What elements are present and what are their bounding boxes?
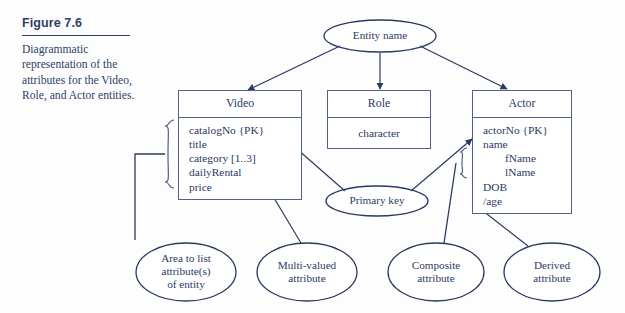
figure-page: Figure 7.6 Diagrammatic representation o…	[0, 0, 625, 313]
multi-valued-ellipse	[257, 243, 357, 301]
attribute-item: dailyRental	[189, 165, 301, 179]
connector-arealist	[135, 154, 165, 240]
entity-attributes-actor: actorNo {PK}namefNamelNameDOB/age	[473, 118, 571, 213]
attribute-item: name	[483, 137, 571, 151]
entity-box-actor: Actor actorNo {PK}namefNamelNameDOB/age	[472, 90, 572, 214]
brace-video-attributes	[165, 120, 174, 188]
primary-key-ellipse	[326, 186, 428, 216]
attribute-item: lName	[483, 165, 571, 179]
entity-box-video: Video catalogNo {PK}titlecategory [1..3]…	[178, 90, 302, 200]
attribute-item: title	[189, 137, 301, 151]
arrow-entityname-to-actor	[420, 46, 507, 89]
derived-attribute-ellipse	[504, 243, 600, 301]
brace-composite-attribute	[460, 148, 467, 178]
entity-box-role: Role character	[327, 90, 431, 149]
area-to-list-ellipse	[136, 243, 236, 301]
attribute-item: catalogNo {PK}	[189, 123, 301, 137]
attribute-item: actorNo {PK}	[483, 123, 571, 137]
attribute-item: fName	[483, 151, 571, 165]
entity-name-ellipse	[324, 20, 436, 52]
composite-attribute-ellipse	[388, 243, 484, 301]
arrow-entityname-to-video	[248, 46, 340, 90]
attribute-item: character	[328, 126, 430, 140]
entity-header-actor: Actor	[473, 91, 571, 118]
connector-composite	[444, 163, 456, 243]
entity-header-video: Video	[179, 91, 301, 118]
attribute-item: /age	[483, 194, 571, 208]
entity-attributes-role: character	[328, 118, 430, 148]
attribute-item: category [1..3]	[189, 151, 301, 165]
attribute-item: DOB	[483, 180, 571, 194]
entity-attributes-video: catalogNo {PK}titlecategory [1..3]dailyR…	[179, 118, 301, 199]
attribute-item: price	[189, 180, 301, 194]
entity-header-role: Role	[328, 91, 430, 118]
